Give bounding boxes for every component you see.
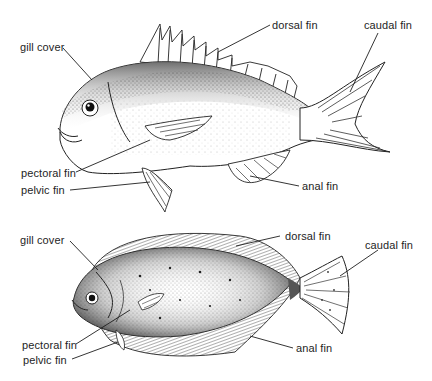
flat-fish-figure xyxy=(72,233,350,356)
label-caudal-fin-top: caudal fin xyxy=(364,19,412,31)
flat-fish-eye xyxy=(86,292,98,304)
round-fish-pelvic-fin xyxy=(142,168,172,212)
label-gill-cover-bottom: gill cover xyxy=(20,234,64,246)
fish-illustrations xyxy=(0,0,432,381)
fish-anatomy-diagram: gill cover dorsal fin caudal fin pectora… xyxy=(0,0,432,381)
label-dorsal-fin-bottom: dorsal fin xyxy=(285,230,331,242)
label-gill-cover-top: gill cover xyxy=(20,41,64,53)
round-fish-figure xyxy=(58,24,390,212)
round-fish-eye xyxy=(82,100,98,116)
label-dorsal-fin-top: dorsal fin xyxy=(272,19,318,31)
label-pectoral-fin-bottom: pectoral fin xyxy=(22,339,77,351)
label-pectoral-fin-top: pectoral fin xyxy=(21,167,76,179)
flat-fish-caudal-fin xyxy=(288,256,350,334)
label-pelvic-fin-top: pelvic fin xyxy=(21,184,65,196)
label-anal-fin-bottom: anal fin xyxy=(296,342,332,354)
round-fish-caudal-fin xyxy=(300,62,390,152)
label-anal-fin-top: anal fin xyxy=(302,180,338,192)
label-caudal-fin-bottom: caudal fin xyxy=(365,239,413,251)
label-pelvic-fin-bottom: pelvic fin xyxy=(23,354,67,366)
